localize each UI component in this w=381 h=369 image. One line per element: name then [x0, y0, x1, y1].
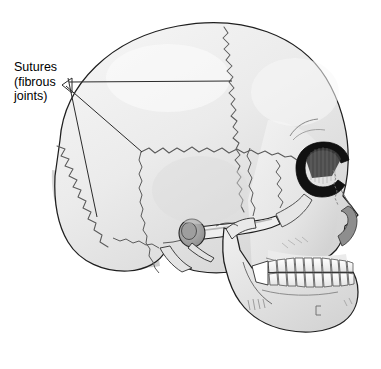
skull-body	[52, 23, 358, 332]
frontal-highlight	[251, 58, 339, 126]
skull-figure: Sutures (fibrous joints)	[0, 0, 381, 369]
ear-canal-opening	[182, 223, 197, 240]
sutures-label-line2: (fibrous	[14, 75, 76, 90]
sutures-label-line1: Sutures	[14, 60, 76, 75]
sutures-label: Sutures (fibrous joints)	[14, 60, 76, 104]
temporal-fossa-shadow	[152, 156, 248, 224]
maxillary-teeth	[268, 258, 353, 273]
sutures-label-line3: joints)	[14, 89, 76, 104]
skull-illustration	[0, 0, 381, 369]
mandibular-teeth	[269, 273, 354, 287]
parietal-highlight	[106, 44, 230, 112]
